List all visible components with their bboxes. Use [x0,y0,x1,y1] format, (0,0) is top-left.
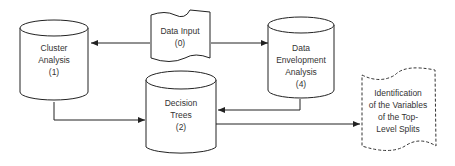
node-data-input: Data Input (0) [151,10,210,62]
label-line: Envelopment [276,55,326,65]
flow-diagram: Data Input (0) Cluster Analysis (1) Deci… [0,0,455,166]
label-line: (4) [296,79,307,89]
cylinder-top [20,20,88,36]
edge-dea-to-trees [218,99,300,110]
node-dea: Data Envelopment Analysis (4) [268,17,334,98]
label-line: Trees [170,110,191,120]
node-identification: Identification of the Variables of the T… [362,68,436,151]
node-cluster-analysis: Cluster Analysis (1) [20,20,88,100]
label-line: Level Splits [376,124,419,134]
label-line: Analysis [38,55,70,65]
label-line: Data [292,43,310,53]
cylinder-top [146,71,216,89]
label-line: (1) [49,67,60,77]
label-line: of the Variables [369,100,427,110]
label-line: Analysis [285,67,317,77]
node-decision-trees: Decision Trees (2) [146,71,216,153]
cylinder-top [268,17,334,33]
label-line: Cluster [41,43,68,53]
edge-cluster-to-trees [54,102,145,120]
label-line: Identification [374,88,422,98]
label-line: Data Input [160,26,200,36]
label-line: (2) [176,122,187,132]
label-line: of the Top- [378,112,418,122]
label-line: Decision [165,98,198,108]
label-line: (0) [175,38,186,48]
